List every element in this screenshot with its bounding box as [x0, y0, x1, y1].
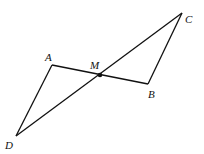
label-d: D: [4, 139, 13, 151]
label-b: B: [148, 88, 155, 100]
geometry-diagram: A M B C D: [0, 0, 204, 154]
label-c: C: [185, 13, 193, 25]
label-m: M: [89, 59, 100, 71]
segment-ad: [16, 65, 52, 136]
label-a: A: [44, 51, 52, 63]
diagram-svg: A M B C D: [0, 0, 204, 154]
segment-bc: [148, 13, 182, 84]
point-m-dot: [98, 73, 103, 78]
